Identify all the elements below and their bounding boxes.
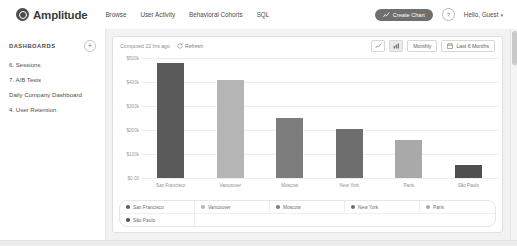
legend-label: São Paulo <box>133 218 155 223</box>
line-chart-toggle[interactable] <box>371 40 385 52</box>
nav-right-group: Create Chart ? Hello, Guest▾ <box>375 8 503 21</box>
legend-label: Vancouver <box>208 205 231 210</box>
create-chart-label: Create Chart <box>393 12 425 18</box>
legend-spacer <box>195 214 270 226</box>
refresh-button[interactable]: Refresh <box>177 43 203 49</box>
add-dashboard-button[interactable]: + <box>84 40 96 52</box>
x-axis-labels: San FranciscoVancouverMoscowNew YorkPari… <box>141 182 498 191</box>
chart-legend: San FranciscoVancouverMoscowNew YorkPari… <box>119 200 496 227</box>
sidebar-item-user-retention[interactable]: 4. User Retention <box>9 106 96 113</box>
sidebar-item-ab-tests[interactable]: 7. A/B Tests <box>9 76 96 83</box>
legend-item[interactable]: Paris <box>420 201 495 213</box>
legend-label: New York <box>358 205 378 210</box>
y-axis-tick-label: $300k <box>126 104 139 109</box>
legend-item[interactable]: San Francisco <box>120 201 195 213</box>
top-navigation-bar: Amplitude Browse User Activity Behaviora… <box>0 0 517 30</box>
bar[interactable] <box>455 165 482 178</box>
brand-logo[interactable]: Amplitude <box>16 8 87 21</box>
sidebar-item-sessions[interactable]: 6. Sessions <box>9 61 96 68</box>
legend-item[interactable]: New York <box>345 201 420 213</box>
chart-controls: Monthly Last 6 Months <box>371 40 495 52</box>
legend-label: Moscow <box>283 205 301 210</box>
legend-spacer <box>345 214 420 226</box>
primary-nav: Browse User Activity Behavioral Cohorts … <box>105 11 269 18</box>
horizontal-scrollbar[interactable] <box>0 240 517 246</box>
x-axis-tick-label: San Francisco <box>156 183 185 188</box>
bar[interactable] <box>395 140 422 178</box>
x-axis-tick-label: São Paulo <box>458 183 479 188</box>
bar-series <box>141 54 498 182</box>
bar[interactable] <box>336 129 363 178</box>
interval-dropdown[interactable]: Monthly <box>407 40 437 52</box>
legend-spacer <box>420 214 495 226</box>
legend-color-swatch <box>351 205 355 209</box>
legend-row: São Paulo <box>120 214 495 226</box>
x-axis-tick-label: Paris <box>404 183 414 188</box>
line-chart-icon <box>375 43 382 49</box>
legend-color-swatch <box>126 218 130 222</box>
legend-color-swatch <box>276 205 280 209</box>
y-axis-tick-label: $200k <box>126 128 139 133</box>
sidebar-header: DASHBOARDS + <box>9 40 96 52</box>
bar-chart-toggle[interactable] <box>389 40 403 52</box>
nav-item-user-activity[interactable]: User Activity <box>140 11 175 18</box>
refresh-label: Refresh <box>185 43 203 49</box>
content-area: Computed 22 hrs ago Refresh <box>106 29 517 246</box>
nav-item-behavioral-cohorts[interactable]: Behavioral Cohorts <box>189 11 243 18</box>
legend-item[interactable]: Vancouver <box>195 201 270 213</box>
interval-label: Monthly <box>413 43 431 49</box>
chart-plus-icon <box>383 12 390 18</box>
x-axis-tick-label: New York <box>340 183 359 188</box>
date-range-picker[interactable]: Last 6 Months <box>441 40 495 52</box>
legend-color-swatch <box>426 205 430 209</box>
y-axis-tick-label: $0.00 <box>128 176 140 181</box>
date-range-label: Last 6 Months <box>456 43 489 49</box>
bar[interactable] <box>157 63 184 178</box>
refresh-icon <box>177 43 183 49</box>
vertical-scrollbar[interactable]: ▼ <box>510 29 517 246</box>
legend-item[interactable]: São Paulo <box>120 214 195 226</box>
x-axis-tick-label: Vancouver <box>219 183 241 188</box>
legend-color-swatch <box>201 205 205 209</box>
x-axis-tick-label: Moscow <box>281 183 298 188</box>
app-root: Amplitude Browse User Activity Behaviora… <box>0 0 517 246</box>
nav-item-browse[interactable]: Browse <box>105 11 126 18</box>
legend-label: Paris <box>433 205 444 210</box>
vertical-scrollbar-thumb[interactable] <box>512 31 517 65</box>
brand-name: Amplitude <box>33 9 87 21</box>
help-icon[interactable]: ? <box>442 8 455 21</box>
bar[interactable] <box>217 80 244 178</box>
legend-item[interactable]: Moscow <box>270 201 345 213</box>
amplitude-logo-icon <box>16 8 29 21</box>
y-axis-tick-label: $500k <box>126 56 139 61</box>
legend-spacer <box>270 214 345 226</box>
bar-chart-icon <box>393 43 400 49</box>
chart-card: Computed 22 hrs ago Refresh <box>112 36 503 233</box>
y-axis-labels: $0.00$100k$200k$300k$400k$500k <box>113 54 141 182</box>
legend-label: San Francisco <box>133 205 164 210</box>
bar-chart-plot: $0.00$100k$200k$300k$400k$500k San Franc… <box>113 54 504 182</box>
account-label: Hello, Guest <box>464 11 499 18</box>
y-axis-tick-label: $400k <box>126 80 139 85</box>
account-menu[interactable]: Hello, Guest▾ <box>464 11 503 18</box>
sidebar-item-daily-company-dashboard[interactable]: Daily Company Dashboard <box>9 91 96 98</box>
sidebar-title: DASHBOARDS <box>9 43 56 49</box>
sidebar: DASHBOARDS + 6. Sessions 7. A/B Tests Da… <box>0 29 106 246</box>
legend-color-swatch <box>126 205 130 209</box>
chart-toolbar: Computed 22 hrs ago Refresh <box>113 37 502 54</box>
chevron-down-icon: ▾ <box>500 12 503 18</box>
sidebar-list: 6. Sessions 7. A/B Tests Daily Company D… <box>9 61 96 113</box>
bar[interactable] <box>276 118 303 178</box>
nav-item-sql[interactable]: SQL <box>257 11 270 18</box>
calendar-icon <box>447 43 453 49</box>
create-chart-button[interactable]: Create Chart <box>375 9 433 21</box>
y-axis-tick-label: $100k <box>126 152 139 157</box>
computed-timestamp: Computed 22 hrs ago <box>120 43 170 49</box>
legend-row: San FranciscoVancouverMoscowNew YorkPari… <box>120 201 495 214</box>
